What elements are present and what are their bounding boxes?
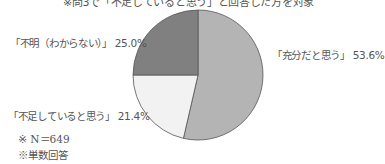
note-sample-size: ※ N＝649: [18, 131, 70, 146]
label-sufficient: 「充分だと思う」 53.6%: [272, 47, 385, 62]
label-insufficient: 「不足していると思う」 21.4%: [8, 108, 150, 123]
note-single-answer: ※単数回答: [18, 147, 68, 162]
label-unknown: 「不明（わからない）」 25.0%: [10, 35, 147, 50]
pie-slices: [133, 10, 263, 140]
